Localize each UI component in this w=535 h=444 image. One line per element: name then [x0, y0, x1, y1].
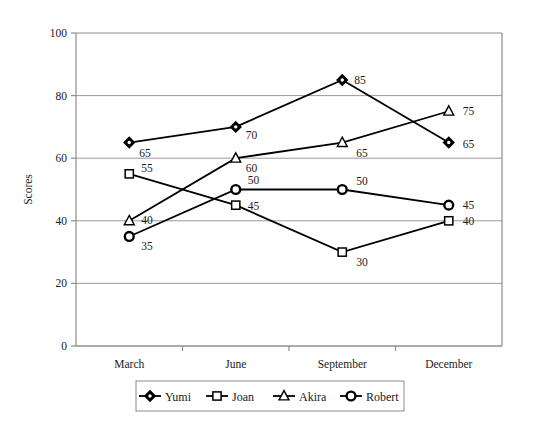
diamond-icon	[148, 394, 151, 397]
series-line	[129, 174, 449, 252]
y-tick-label: 0	[61, 340, 67, 352]
data-point-marker	[232, 201, 240, 209]
y-axis-title: Scores	[22, 174, 34, 205]
legend-label: Robert	[366, 390, 399, 404]
data-label: 70	[246, 129, 258, 141]
data-point-marker	[231, 185, 240, 194]
data-point-marker	[444, 201, 453, 210]
marker-center	[341, 78, 344, 81]
data-label: 85	[354, 74, 366, 86]
x-tick-label: March	[114, 358, 144, 370]
square-icon	[213, 392, 221, 400]
data-point-marker	[444, 106, 454, 115]
data-point-marker	[445, 217, 453, 225]
chart-canvas: 100806040200ScoresMarchJuneSeptemberDece…	[0, 0, 535, 444]
marker-center	[447, 141, 450, 144]
x-tick-label: June	[225, 358, 246, 370]
y-tick-label: 60	[56, 152, 68, 164]
y-tick-label: 20	[56, 277, 68, 289]
data-label: 50	[248, 174, 260, 186]
series-yumi: 65708565	[124, 74, 474, 159]
series-akira: 40606575	[124, 105, 474, 226]
data-label: 65	[463, 138, 475, 150]
data-label: 40	[141, 214, 153, 226]
data-point-marker	[338, 248, 346, 256]
legend-label: Yumi	[165, 390, 192, 404]
x-axis: MarchJuneSeptemberDecember	[114, 346, 472, 371]
data-point-marker	[124, 215, 134, 224]
series-line	[129, 80, 449, 143]
y-tick-label: 40	[56, 215, 68, 227]
circle-icon	[347, 392, 356, 401]
legend-label: Akira	[299, 390, 327, 404]
data-label: 65	[139, 147, 151, 159]
y-tick-label: 100	[50, 27, 68, 39]
data-point-marker	[125, 170, 133, 178]
data-label: 65	[356, 147, 368, 159]
marker-center	[234, 125, 237, 128]
data-label: 60	[246, 162, 258, 174]
series-line	[129, 111, 449, 221]
line-chart: 100806040200ScoresMarchJuneSeptemberDece…	[0, 0, 535, 444]
y-tick-label: 80	[56, 90, 68, 102]
data-label: 50	[356, 175, 368, 187]
data-label: 75	[463, 105, 475, 117]
data-label: 45	[248, 200, 260, 212]
legend-label: Joan	[232, 390, 254, 404]
data-label: 30	[356, 256, 368, 268]
data-label: 45	[463, 199, 475, 211]
chart-legend: YumiJoanAkiraRobert	[136, 381, 404, 411]
series-robert: 35505045	[125, 174, 475, 253]
data-label: 55	[141, 162, 153, 174]
data-point-marker	[125, 232, 134, 241]
data-label: 35	[141, 240, 153, 252]
x-tick-label: September	[318, 358, 367, 371]
data-label: 40	[463, 215, 475, 227]
marker-center	[128, 141, 131, 144]
data-point-marker	[338, 185, 347, 194]
y-axis: 100806040200Scores	[22, 27, 76, 352]
x-tick-label: December	[425, 358, 472, 370]
